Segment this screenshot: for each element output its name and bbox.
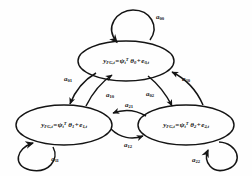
noise-sub-1: 1,t [82,124,86,129]
regressor-sup-1: T [64,121,67,126]
edge-arc-2-to-1[interactable] [113,111,146,116]
state-diagram-svg [0,0,252,176]
a20-sub: 20 [186,78,190,83]
self-loop-arc-state-0[interactable] [112,10,154,42]
transition-label-a00: a00 [156,13,164,21]
noise-sub-2: 2,t [204,124,208,129]
output-sub-2: FG,t [166,124,174,129]
transition-label-a02: a02 [146,90,154,98]
edge-arc-0-to-1[interactable] [70,73,96,104]
transition-label-a21: a21 [125,101,133,109]
a12-sub: 12 [128,144,132,149]
a11-sub: 11 [55,158,59,163]
state-equation-right: yFG,t=ψtT θ2+e2,t [163,121,209,129]
noise-sub-0: 0,t [144,60,148,65]
state-equation-top: yFG,t=ψtT θ0+e0,t [103,57,149,65]
transition-label-a01: a01 [64,75,72,83]
transition-label-a11: a11 [51,155,59,163]
regressor-sup-0: T [126,57,129,62]
a02-sub: 02 [150,93,154,98]
self-loop-arc-state-2[interactable] [207,142,238,171]
output-sub-1: FG,t [44,124,52,129]
a21-sub: 21 [129,104,133,109]
a01-sub: 01 [68,78,72,83]
transition-label-a10: a10 [106,91,114,99]
transition-label-a22: a22 [192,156,200,164]
regressor-sup-2: T [186,121,189,126]
edge-arc-1-to-2[interactable] [111,129,143,138]
self-loop-arc-state-1[interactable] [18,143,55,171]
state-equation-left: yFG,t=ψtT θ1+e1,t [41,121,87,129]
transition-label-a12: a12 [124,141,132,149]
a00-sub: 00 [160,16,164,21]
a10-sub: 10 [110,94,114,99]
diagram-canvas: yFG,t=ψtT θ0+e0,t yFG,t=ψtT θ1+e1,t yFG,… [0,0,252,176]
a22-sub: 22 [196,159,200,164]
transition-label-a20: a20 [182,75,190,83]
output-sub-0: FG,t [106,60,114,65]
